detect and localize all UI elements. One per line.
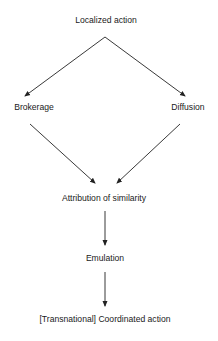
edge-localized-to-diffusion bbox=[105, 37, 185, 96]
node-transnational-coordinated-action: [Transnational] Coordinated action bbox=[39, 314, 170, 324]
node-emulation: Emulation bbox=[86, 253, 124, 263]
node-diffusion: Diffusion bbox=[171, 102, 204, 112]
edge-diffusion-to-attribution bbox=[117, 124, 180, 183]
node-localized-action: Localized action bbox=[75, 15, 137, 25]
node-attribution-of-similarity: Attribution of similarity bbox=[62, 193, 146, 203]
diagram-edges bbox=[0, 0, 218, 341]
edge-brokerage-to-attribution bbox=[30, 124, 95, 183]
node-brokerage: Brokerage bbox=[14, 102, 54, 112]
edge-localized-to-brokerage bbox=[25, 37, 105, 96]
